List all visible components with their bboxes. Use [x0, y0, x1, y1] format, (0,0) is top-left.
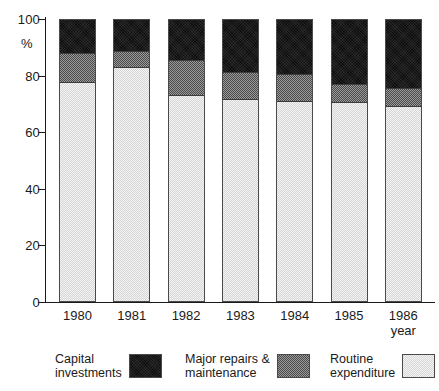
bar-segment-major [277, 74, 312, 101]
bar-segment-routine [386, 106, 421, 302]
segment-divider [114, 67, 149, 68]
x-axis-title: year [373, 324, 433, 338]
segment-divider [223, 72, 258, 73]
x-axis-line [45, 302, 435, 303]
x-axis-tick-label: 1982 [156, 309, 216, 323]
bar-segment-capital [277, 20, 312, 74]
segment-divider [223, 99, 258, 100]
bar-1981 [113, 19, 150, 302]
bar-1980 [59, 19, 96, 302]
segment-divider [114, 51, 149, 52]
bar-1983 [222, 19, 259, 302]
bar-segment-major [60, 53, 95, 83]
bar-1982 [168, 19, 205, 302]
legend-label: Major repairs & maintenance [185, 352, 270, 380]
bar-1986 [385, 19, 422, 302]
bar-segment-capital [60, 20, 95, 53]
y-axis-tick-label: 80 [25, 70, 40, 83]
legend-label: Routine expenditure [330, 352, 395, 380]
segment-divider [277, 74, 312, 75]
segment-divider [332, 84, 367, 85]
legend-item-major[interactable]: Major repairs & maintenance [185, 352, 310, 380]
segment-divider [169, 60, 204, 61]
y-axis-tick-label: 100 [18, 13, 40, 26]
segment-divider [60, 82, 95, 83]
segment-divider [60, 53, 95, 54]
chart-legend: Capital investmentsMajor repairs & maint… [0, 352, 439, 391]
y-axis-title: % [21, 37, 33, 50]
bar-segment-major [332, 84, 367, 102]
bar-segment-capital [169, 20, 204, 60]
x-axis-tick-label: 1981 [102, 309, 162, 323]
bar-segment-routine [60, 82, 95, 302]
stacked-bar-chart: % 020406080100 1980198119821983198419851… [0, 0, 439, 391]
bar-1984 [276, 19, 313, 302]
legend-swatch-routine [402, 354, 435, 378]
segment-divider [169, 95, 204, 96]
y-axis-tick-label: 20 [25, 239, 40, 252]
legend-swatch-capital [129, 354, 162, 378]
x-axis-tick-label: 1986 [373, 309, 433, 323]
bar-segment-capital [386, 20, 421, 88]
segment-divider [386, 106, 421, 107]
bar-segment-routine [277, 101, 312, 302]
bar-segment-major [386, 88, 421, 106]
x-axis-tick-label: 1980 [48, 309, 108, 323]
legend-swatch-major [277, 354, 310, 378]
bar-segment-routine [223, 99, 258, 302]
y-axis-tick-label: 0 [33, 296, 40, 309]
segment-divider [386, 88, 421, 89]
segment-divider [332, 102, 367, 103]
x-axis-tick-label: 1983 [210, 309, 270, 323]
bar-segment-routine [332, 102, 367, 302]
segment-divider [277, 101, 312, 102]
bar-segment-capital [332, 20, 367, 84]
y-axis-tick-label: 40 [25, 183, 40, 196]
bar-segment-routine [114, 67, 149, 302]
legend-label: Capital investments [55, 352, 122, 380]
x-axis-tick-label: 1985 [319, 309, 379, 323]
bar-1985 [331, 19, 368, 302]
bar-segment-major [114, 51, 149, 67]
legend-item-routine[interactable]: Routine expenditure [330, 352, 435, 380]
y-axis-tick-label: 60 [25, 126, 40, 139]
legend-item-capital[interactable]: Capital investments [55, 352, 162, 380]
bar-segment-routine [169, 95, 204, 302]
plot-area [45, 19, 435, 302]
bar-segment-capital [223, 20, 258, 72]
bar-segment-major [223, 72, 258, 99]
x-axis-tick-label: 1984 [265, 309, 325, 323]
bar-segment-capital [114, 20, 149, 51]
bar-segment-major [169, 60, 204, 95]
